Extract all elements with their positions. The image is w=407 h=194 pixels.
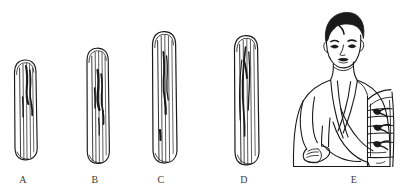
panel-label-c: C <box>151 175 171 185</box>
patient-mouth <box>339 58 349 61</box>
patient-eye-left <box>331 45 338 48</box>
splinted-limb-cuff-line <box>368 157 393 158</box>
splints-illustration-svg <box>0 0 407 194</box>
splint-b-knot-streak-5 <box>99 118 100 135</box>
panel-label-a: A <box>13 175 33 185</box>
splint-d <box>235 36 260 165</box>
patient-eye-right <box>348 45 355 48</box>
panel-label-b: B <box>85 175 105 185</box>
figure-background <box>0 0 407 194</box>
splint-a-knot-streak-3 <box>23 97 24 117</box>
panel-label-e: E <box>344 175 364 185</box>
splint-b <box>87 48 109 163</box>
splint-b-knot-streak-4 <box>103 111 104 124</box>
splint-c <box>153 32 178 163</box>
splint-b-knot-streak-3 <box>95 88 96 108</box>
figure-root: A B C D E <box>0 0 407 194</box>
splint-b-knot-streak-1 <box>98 70 100 110</box>
splint-a-knot-streak-4 <box>31 105 32 116</box>
splint-c-knot-streak-3 <box>165 101 166 114</box>
splint-a <box>15 60 38 160</box>
splint-c-knot-streak-4 <box>160 130 161 140</box>
panel-label-d: D <box>234 175 254 185</box>
